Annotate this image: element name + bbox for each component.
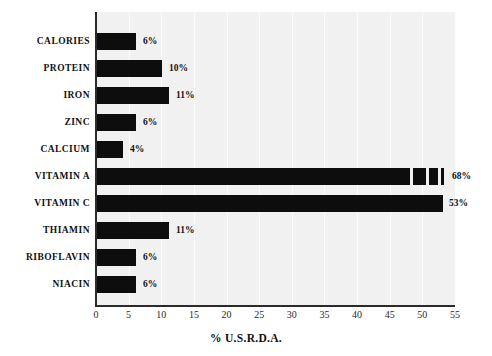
bar-gridline-gap — [410, 168, 413, 185]
category-label: CALCIUM — [0, 136, 90, 163]
value-label: 4% — [130, 141, 144, 158]
category-label: PROTEIN — [0, 55, 90, 82]
category-label: RIBOFLAVIN — [0, 244, 90, 271]
x-tick-label: 0 — [94, 309, 99, 320]
x-tick-label: 15 — [189, 309, 199, 320]
bar — [97, 222, 169, 239]
bar — [97, 141, 123, 158]
bar-row: PROTEIN 10% — [0, 55, 492, 82]
bar-row: NIACIN 6% — [0, 271, 492, 298]
value-label: 11% — [176, 222, 194, 239]
bar-row: IRON 11% — [0, 82, 492, 109]
bar-gridline-gap — [438, 168, 441, 185]
value-label: 10% — [169, 60, 188, 77]
x-tick-label: 40 — [352, 309, 362, 320]
bar-row: ZINC 6% — [0, 109, 492, 136]
x-tick-label: 20 — [222, 309, 232, 320]
value-label: 53% — [449, 195, 468, 212]
bar-gridline-gap — [426, 168, 429, 185]
category-label: IRON — [0, 82, 90, 109]
bar-row: CALORIES 6% — [0, 28, 492, 55]
category-label: VITAMIN A — [0, 163, 90, 190]
value-label: 6% — [143, 249, 157, 266]
bar-row: CALCIUM 4% — [0, 136, 492, 163]
bar — [97, 276, 136, 293]
value-label: 6% — [143, 33, 157, 50]
x-tick-label: 45 — [385, 309, 395, 320]
value-label: 68% — [452, 168, 471, 185]
x-tick-label: 10 — [156, 309, 166, 320]
x-tick-label: 5 — [126, 309, 131, 320]
value-label: 6% — [143, 276, 157, 293]
bar — [97, 249, 136, 266]
value-label: 11% — [176, 87, 194, 104]
category-label: ZINC — [0, 109, 90, 136]
bar — [97, 168, 444, 185]
x-tick-label: 25 — [254, 309, 264, 320]
bar-row: VITAMIN C 53% — [0, 190, 492, 217]
category-label: CALORIES — [0, 28, 90, 55]
x-tick-label: 55 — [450, 309, 460, 320]
category-label: NIACIN — [0, 271, 90, 298]
bar — [97, 60, 162, 77]
category-label: THIAMIN — [0, 217, 90, 244]
bar — [97, 87, 169, 104]
x-tick-label: 35 — [319, 309, 329, 320]
x-tick-label: 30 — [287, 309, 297, 320]
x-axis-ticks: 0 5 10 15 20 25 30 35 40 45 50 55 — [0, 309, 492, 327]
category-label: VITAMIN C — [0, 190, 90, 217]
bar-row: RIBOFLAVIN 6% — [0, 244, 492, 271]
bar — [97, 114, 136, 131]
bar — [97, 33, 136, 50]
bar-rows: CALORIES 6% PROTEIN 10% IRON 11% ZINC 6%… — [0, 12, 492, 306]
value-label: 6% — [143, 114, 157, 131]
x-axis-title: % U.S.R.D.A. — [0, 332, 492, 344]
bar-chart: CALORIES 6% PROTEIN 10% IRON 11% ZINC 6%… — [0, 0, 492, 356]
bar-row: THIAMIN 11% — [0, 217, 492, 244]
x-tick-label: 50 — [417, 309, 427, 320]
bar-row: VITAMIN A 68% — [0, 163, 492, 190]
bar — [97, 195, 443, 212]
